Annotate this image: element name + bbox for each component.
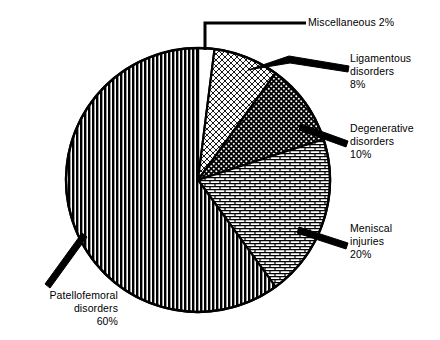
leader-line-miscellaneous (205, 23, 306, 50)
pie-label-patellofemoral: Patellofemoral disorders 60% (8, 289, 118, 328)
leader-line-patellofemoral (45, 233, 87, 288)
pie-label-ligamentous: Ligamentous disorders 8% (350, 52, 411, 91)
pie-label-meniscal: Meniscal injuries 20% (350, 222, 392, 261)
pie-slices (66, 48, 330, 312)
pie-label-miscellaneous: Miscellaneous 2% (308, 16, 394, 29)
pie-chart-figure: Miscellaneous 2% Ligamentous disorders 8… (0, 0, 440, 340)
pie-label-degenerative: Degenerative disorders 10% (350, 122, 414, 161)
